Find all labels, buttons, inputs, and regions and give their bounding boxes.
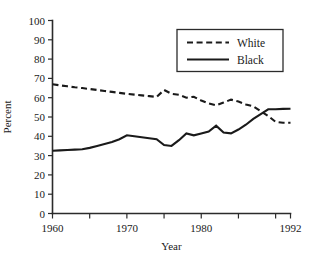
y-tick-label: 70 — [34, 72, 46, 84]
y-tick-label: 60 — [34, 92, 46, 104]
y-tick-label: 10 — [34, 188, 46, 200]
y-tick-label: 0 — [40, 208, 46, 220]
y-tick-label: 20 — [34, 169, 46, 181]
x-axis-title: Year — [161, 240, 182, 252]
y-tick-label: 80 — [34, 53, 46, 65]
y-tick-label: 100 — [29, 15, 46, 27]
y-tick-label: 50 — [34, 111, 46, 123]
y-tick-label: 90 — [34, 34, 46, 46]
line-chart: 01020304050607080901001960197019801992Ye… — [0, 0, 315, 267]
figure-container: 01020304050607080901001960197019801992Ye… — [0, 0, 315, 267]
x-tick-label: 1970 — [116, 222, 139, 234]
legend-box — [177, 30, 283, 72]
y-tick-label: 40 — [34, 130, 46, 142]
legend-label-black: Black — [237, 54, 264, 66]
series-line-black — [53, 109, 291, 151]
y-tick-label: 30 — [34, 150, 46, 162]
y-axis-title: Percent — [1, 101, 13, 134]
x-tick-label: 1960 — [42, 222, 65, 234]
x-tick-label: 1992 — [280, 222, 302, 234]
legend-label-white: White — [237, 37, 265, 49]
x-tick-label: 1980 — [190, 222, 213, 234]
